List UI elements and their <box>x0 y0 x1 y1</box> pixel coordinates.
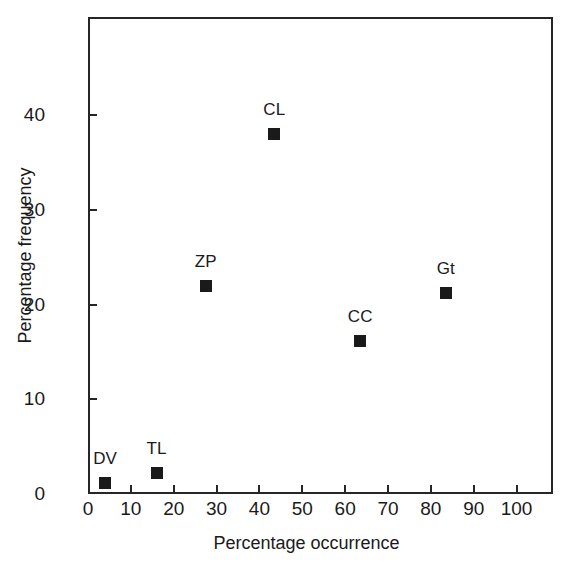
plot-data-area: DVTLZPCLCCGt <box>88 17 553 494</box>
x-axis-tick <box>344 485 346 494</box>
y-axis-title-text: Percentage frequency <box>15 167 36 343</box>
data-point-marker <box>268 128 280 140</box>
data-point-label: DV <box>93 449 117 469</box>
data-point-marker <box>200 280 212 292</box>
y-axis-tick <box>88 209 97 211</box>
x-axis-tick-label: 40 <box>249 498 270 520</box>
data-point-marker <box>151 467 163 479</box>
x-axis-tick <box>173 485 175 494</box>
x-axis-tick <box>516 485 518 494</box>
data-point-label: Gt <box>437 259 455 279</box>
data-point-label: ZP <box>195 252 217 272</box>
x-axis-tick <box>387 485 389 494</box>
x-axis-tick-label: 10 <box>120 498 141 520</box>
x-axis-tick-label: 70 <box>377 498 398 520</box>
y-axis-tick <box>88 398 97 400</box>
x-axis-tick-label: 30 <box>206 498 227 520</box>
data-point-marker <box>354 335 366 347</box>
x-axis-tick <box>216 485 218 494</box>
x-axis-tick-label: 80 <box>420 498 441 520</box>
x-axis-tick <box>430 485 432 494</box>
x-axis-tick-label: 50 <box>292 498 313 520</box>
x-axis-tick <box>473 485 475 494</box>
x-axis-title: Percentage occurrence <box>0 533 569 554</box>
x-axis-tick <box>301 485 303 494</box>
x-axis-tick-label: 90 <box>463 498 484 520</box>
x-axis-tick <box>258 485 260 494</box>
x-axis-tick <box>130 485 132 494</box>
data-point-label: TL <box>146 439 166 459</box>
y-axis-tick <box>88 114 97 116</box>
data-point-label: CC <box>348 307 373 327</box>
data-point-label: CL <box>263 100 285 120</box>
x-axis-title-text: Percentage occurrence <box>169 533 399 553</box>
y-axis-tick <box>88 304 97 306</box>
x-axis-tick-label: 60 <box>335 498 356 520</box>
x-axis-tick-label: 100 <box>501 498 533 520</box>
data-point-marker <box>99 477 111 489</box>
scatter-plot-figure: DVTLZPCLCCGt 010203040506070809010001020… <box>0 0 569 574</box>
y-axis-title: Percentage frequency <box>11 0 39 510</box>
x-axis-tick-label: 0 <box>83 498 94 520</box>
data-point-marker <box>440 287 452 299</box>
x-axis-tick-label: 20 <box>163 498 184 520</box>
